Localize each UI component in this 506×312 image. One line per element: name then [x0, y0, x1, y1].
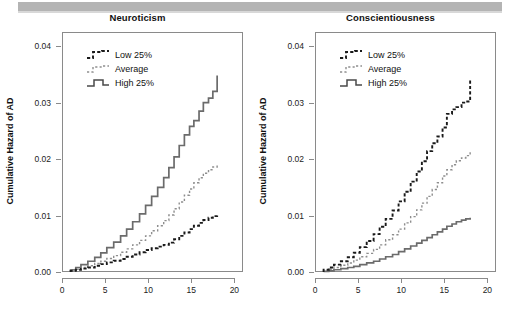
- series-line-high-25: [71, 75, 218, 272]
- y-tick-label: 0.02: [270, 154, 304, 164]
- y-tick-mark: [56, 159, 61, 160]
- legend-label: High 25%: [368, 78, 407, 88]
- legend-key-dashed-icon: [86, 49, 110, 60]
- y-tick-mark: [309, 103, 314, 104]
- legend-item-average: Average: [86, 62, 154, 75]
- y-tick-label: 0.00: [17, 267, 51, 277]
- legend-key-solid-icon: [339, 77, 363, 88]
- y-tick-label: 0.02: [17, 154, 51, 164]
- y-tick-mark: [56, 46, 61, 47]
- y-tick-label: 0.04: [270, 41, 304, 51]
- x-tick-mark: [315, 278, 316, 283]
- x-tick-label: 0: [305, 285, 325, 295]
- chart-panel-conscientiousness: Conscientiousness Cumulative Hazard of A…: [253, 0, 506, 312]
- x-tick-label: 5: [348, 285, 368, 295]
- legend-label: High 25%: [115, 78, 154, 88]
- legend-label: Average: [368, 64, 401, 74]
- chart-panel-neuroticism: Neuroticism Cumulative Hazard of AD Low …: [0, 0, 253, 312]
- y-tick-label: 0.00: [270, 267, 304, 277]
- legend-item-average: Average: [339, 62, 407, 75]
- legend: Low 25% Average High 25%: [86, 48, 154, 90]
- series-line-low-25: [324, 80, 471, 272]
- y-tick-label: 0.03: [17, 98, 51, 108]
- x-tick-label: 5: [95, 285, 115, 295]
- y-tick-mark: [56, 272, 61, 273]
- y-tick-label: 0.04: [17, 41, 51, 51]
- legend-key-solid-icon: [86, 77, 110, 88]
- y-tick-mark: [56, 103, 61, 104]
- legend-key-dotted-icon: [339, 63, 363, 74]
- legend-key-dashed-icon: [339, 49, 363, 60]
- x-tick-mark: [191, 278, 192, 283]
- x-tick-label: 10: [391, 285, 411, 295]
- x-tick-mark: [148, 278, 149, 283]
- x-tick-mark: [401, 278, 402, 283]
- legend-label: Low 25%: [368, 50, 405, 60]
- figure-root: Neuroticism Cumulative Hazard of AD Low …: [0, 0, 506, 312]
- y-tick-label: 0.03: [270, 98, 304, 108]
- x-tick-label: 0: [52, 285, 72, 295]
- legend-item-low-25: Low 25%: [339, 48, 407, 61]
- y-tick-mark: [56, 216, 61, 217]
- y-tick-mark: [309, 272, 314, 273]
- y-tick-mark: [309, 216, 314, 217]
- x-tick-mark: [234, 278, 235, 283]
- x-tick-mark: [105, 278, 106, 283]
- series-line-low-25: [71, 214, 218, 272]
- x-tick-label: 15: [434, 285, 454, 295]
- legend-item-high-25: High 25%: [86, 76, 154, 89]
- x-tick-mark: [487, 278, 488, 283]
- x-tick-label: 20: [224, 285, 244, 295]
- x-tick-mark: [358, 278, 359, 283]
- y-tick-mark: [309, 46, 314, 47]
- series-line-average: [71, 165, 218, 272]
- legend-label: Low 25%: [115, 50, 152, 60]
- series-line-high-25: [324, 218, 471, 272]
- y-tick-label: 0.01: [17, 211, 51, 221]
- legend-item-low-25: Low 25%: [86, 48, 154, 61]
- y-tick-mark: [309, 159, 314, 160]
- x-tick-label: 20: [477, 285, 497, 295]
- legend-item-high-25: High 25%: [339, 76, 407, 89]
- y-tick-label: 0.01: [270, 211, 304, 221]
- x-tick-label: 10: [138, 285, 158, 295]
- legend-label: Average: [115, 64, 148, 74]
- legend-key-dotted-icon: [86, 63, 110, 74]
- x-tick-mark: [444, 278, 445, 283]
- x-tick-label: 15: [181, 285, 201, 295]
- legend: Low 25% Average High 25%: [339, 48, 407, 90]
- x-tick-mark: [62, 278, 63, 283]
